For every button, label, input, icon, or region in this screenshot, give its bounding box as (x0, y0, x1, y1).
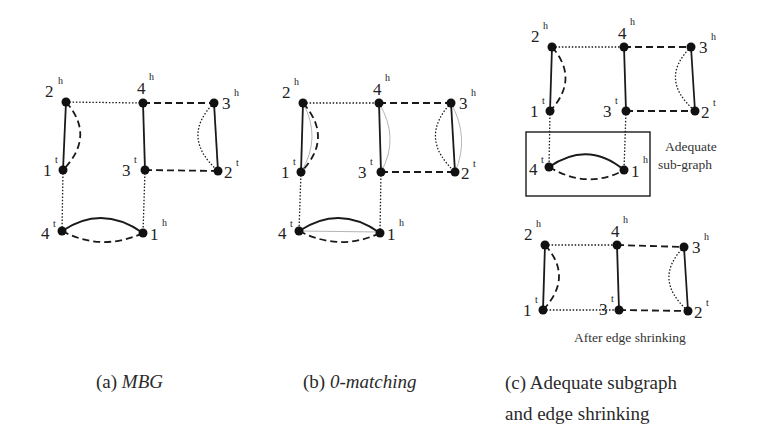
edge-4t-1h-solid (62, 218, 143, 233)
caption-c-line1: (c) Adequate subgraph (505, 372, 678, 394)
label-2t-num: 2 (694, 303, 703, 322)
label-4t-num: 4 (529, 160, 538, 179)
edge-4t-1h-dashed (62, 231, 143, 242)
label-3t-num: 3 (122, 161, 131, 180)
label-4h-sup: h (623, 214, 628, 225)
label-4h-num: 4 (137, 79, 146, 98)
label-1h-sup: h (399, 217, 404, 228)
label-3t-sup: t (370, 156, 373, 167)
label-1h-num: 1 (387, 225, 396, 244)
node-2h (299, 99, 308, 108)
edge-3t-2t-dashed (145, 170, 218, 171)
label-3t-sup: t (134, 154, 137, 165)
edge-4t-1h-solid (549, 154, 624, 170)
node-1t (59, 166, 68, 175)
node-4t (58, 227, 67, 236)
label-4t-sup: t (290, 218, 293, 229)
label-3t-num: 3 (599, 300, 608, 319)
label-1t-sup: t (535, 294, 538, 305)
edge-3h-2t-solid (451, 103, 455, 172)
after-edge-shrinking-label: After edge shrinking (574, 330, 686, 345)
label-2t-sup: t (236, 157, 239, 168)
caption-c-text-line1: Adequate subgraph (530, 372, 678, 393)
label-3t-num: 3 (358, 163, 367, 182)
node-1h (620, 166, 629, 175)
node-4h (139, 99, 148, 108)
edge-1t-4t-dotted (549, 111, 550, 167)
matching-edge-4t-1h (299, 231, 380, 232)
label-3t-sup: t (615, 95, 618, 106)
panel-c-bottom-graph: 2 h 4 h 3 h 1 t 3 t 2 t After edge shrin… (523, 214, 709, 345)
label-1t-sup: t (55, 154, 58, 165)
label-2h-sup: h (536, 218, 541, 229)
label-2h-num: 2 (282, 83, 291, 102)
edge-3t-2t-dashed (619, 310, 688, 311)
label-4h-sup: h (630, 16, 635, 27)
edge-3t-1h-dotted (380, 172, 381, 233)
node-3h (680, 243, 689, 252)
node-2t (691, 107, 700, 116)
node-4t (295, 227, 304, 236)
node-3h (687, 43, 696, 52)
label-1t-num: 1 (523, 301, 532, 320)
label-3h-sup: h (471, 87, 476, 98)
node-3t (141, 166, 150, 175)
node-3t (615, 306, 624, 315)
edge-2h-1t-solid (63, 102, 66, 170)
caption-c-line2: and edge shrinking (505, 403, 650, 424)
label-1h-num: 1 (631, 162, 640, 181)
captions: (a) MBG (b) 0-matching (c) Adequate subg… (96, 371, 678, 424)
node-1h (376, 229, 385, 238)
label-2h-sup: h (294, 76, 299, 87)
label-4h-num: 4 (373, 80, 382, 99)
edge-3t-1h-dotted (143, 170, 145, 233)
label-4t-sup: t (541, 154, 544, 165)
caption-b: (b) 0-matching (303, 371, 416, 393)
label-2t-num: 2 (461, 164, 470, 183)
edge-3h-2t-solid (214, 103, 218, 171)
edge-4h-3t-solid (624, 47, 626, 111)
edge-2h-1t-solid (301, 103, 303, 172)
edge-3h-2t-solid (684, 247, 688, 311)
label-4h-num: 4 (618, 24, 627, 43)
label-1t-sup: t (293, 156, 296, 167)
label-1h-sup: h (162, 217, 167, 228)
edge-2h-4h-dotted (66, 102, 143, 103)
caption-b-text: 0-matching (330, 371, 417, 392)
node-1t (297, 168, 306, 177)
edge-2h-1t-solid (543, 245, 545, 310)
adequate-subgraph-label-line2: sub-graph (658, 157, 712, 172)
node-2h (62, 98, 71, 107)
node-1h (139, 229, 148, 238)
label-2h-num: 2 (531, 27, 540, 46)
label-2t-num: 2 (224, 163, 233, 182)
node-1t (546, 107, 555, 116)
edge-4t-1h-dashed (549, 167, 624, 179)
label-3h-num: 3 (222, 94, 231, 113)
node-4t (545, 163, 554, 172)
caption-c-prefix: (c) (505, 372, 526, 394)
node-3h (210, 99, 219, 108)
node-3t (377, 168, 386, 177)
label-1t-sup: t (542, 95, 545, 106)
node-1t (539, 306, 548, 315)
edge-4h-3h-dashed (617, 245, 684, 247)
label-3h-sup: h (234, 87, 239, 98)
node-2t (684, 307, 693, 316)
edge-4h-3t-solid (379, 103, 381, 172)
adequate-subgraph-label-line1: Adequate (665, 139, 717, 154)
edge-1t-4t-dotted (62, 170, 63, 231)
label-3t-sup: t (611, 293, 614, 304)
edge-1t-4t-dotted (299, 172, 301, 231)
label-3h-num: 3 (699, 38, 708, 57)
figure-canvas: 2 h 4 h 3 h 1 t 3 t 2 t 4 t 1 h (0, 0, 776, 443)
edge-3t-1h-dotted (624, 111, 626, 170)
label-1h-num: 1 (150, 225, 159, 244)
caption-a: (a) MBG (96, 371, 163, 393)
node-2h (541, 241, 550, 250)
label-2h-sup: h (543, 20, 548, 31)
label-2t-num: 2 (701, 103, 710, 122)
label-2h-sup: h (58, 75, 63, 86)
node-3h (447, 99, 456, 108)
label-1t-num: 1 (43, 161, 52, 180)
